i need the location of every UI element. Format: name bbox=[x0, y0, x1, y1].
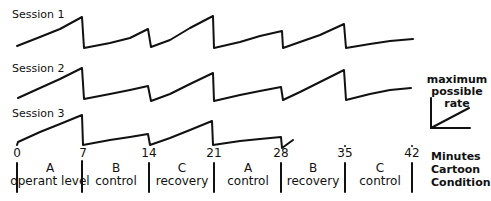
session-3-label: Session 3 bbox=[12, 108, 64, 120]
tick-label-0: 0 bbox=[13, 147, 21, 159]
max-rate-line bbox=[431, 108, 469, 128]
condition-2: B control bbox=[95, 162, 137, 188]
row-labels: Minutes Cartoon Condition bbox=[431, 150, 491, 189]
session-2-label: Session 2 bbox=[12, 63, 64, 75]
tick-label-35: 35 bbox=[337, 147, 352, 159]
condition-label: control bbox=[359, 175, 401, 188]
condition-label: operant level bbox=[10, 175, 89, 188]
tick-label-28: 28 bbox=[273, 147, 288, 159]
condition-label: control bbox=[95, 175, 137, 188]
row-label-minutes: Minutes bbox=[431, 150, 491, 163]
condition-label: recovery bbox=[156, 175, 209, 188]
condition-label: control bbox=[227, 175, 269, 188]
row-label-condition: Condition bbox=[431, 176, 491, 189]
max-rate-legend: maximum possible rate bbox=[426, 74, 488, 110]
condition-1: A operant level bbox=[10, 162, 89, 188]
legend-line-3: rate bbox=[426, 98, 488, 110]
condition-3: C recovery bbox=[156, 162, 209, 188]
tick-label-14: 14 bbox=[141, 147, 156, 159]
condition-5: B recovery bbox=[287, 162, 340, 188]
tick-label-42: 42 bbox=[404, 147, 419, 159]
condition-label: recovery bbox=[287, 175, 340, 188]
tick-label-21: 21 bbox=[206, 147, 221, 159]
condition-4: A control bbox=[227, 162, 269, 188]
row-label-cartoon: Cartoon bbox=[431, 163, 491, 176]
session-1-label: Session 1 bbox=[12, 9, 64, 21]
session-2-curve bbox=[18, 68, 411, 101]
condition-6: C control bbox=[359, 162, 401, 188]
session-1-curve bbox=[17, 16, 413, 48]
tick-label-7: 7 bbox=[79, 147, 87, 159]
